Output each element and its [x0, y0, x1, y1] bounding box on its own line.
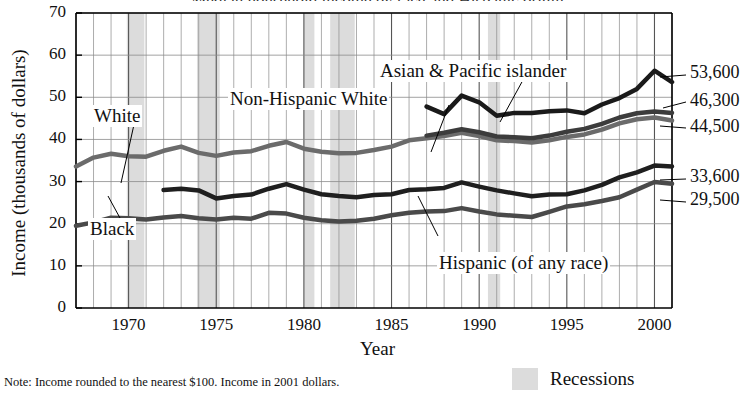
y-tick-label: 30	[32, 171, 66, 191]
series-label-black: Black	[88, 218, 136, 240]
x-tick-label: 1975	[186, 315, 246, 335]
end-value-label: 29,500	[690, 189, 740, 210]
recession-band	[330, 13, 355, 308]
recession-band	[127, 13, 145, 308]
x-axis-title: Year	[0, 338, 755, 360]
annotation-leader-line	[500, 80, 523, 122]
series-label-white: White	[92, 105, 142, 127]
series-line	[164, 166, 672, 199]
x-tick-label: 1985	[362, 315, 422, 335]
y-axis-title: Income (thousands of dollars)	[8, 13, 30, 313]
y-tick-label: 0	[32, 297, 66, 317]
y-tick-label: 70	[32, 2, 66, 22]
recession-swatch-icon	[512, 368, 538, 390]
y-tick-label: 10	[32, 255, 66, 275]
x-tick-label: 1980	[274, 315, 334, 335]
end-label-leader-line	[663, 102, 686, 108]
x-tick-label: 1995	[537, 315, 597, 335]
end-value-label: 53,600	[690, 62, 740, 83]
series-label-asian: Asian & Pacific islander	[378, 60, 568, 82]
x-tick-label: 2000	[624, 315, 684, 335]
x-tick-label: 1990	[449, 315, 509, 335]
annotation-leader-line	[108, 196, 120, 218]
series-label-non-hispanic-white: Non-Hispanic White	[228, 88, 389, 110]
y-tick-label: 60	[32, 44, 66, 64]
annotation-leader-line	[418, 196, 438, 236]
series-label-hispanic: Hispanic (of any race)	[437, 252, 610, 274]
legend: Recessions	[512, 368, 634, 390]
end-label-leader-line	[660, 179, 686, 180]
y-tick-label: 40	[32, 128, 66, 148]
y-tick-label: 20	[32, 213, 66, 233]
chart-note: Note: Income rounded to the nearest $100…	[4, 375, 339, 390]
y-tick-label: 50	[32, 86, 66, 106]
end-value-label: 44,500	[690, 116, 740, 137]
legend-label-recessions: Recessions	[550, 368, 634, 390]
end-label-leader-line	[660, 126, 686, 128]
end-value-label: 33,600	[690, 166, 740, 187]
end-label-leader-line	[660, 200, 686, 202]
chart-figure: Median household income by race and Hisp…	[0, 0, 755, 401]
x-tick-label: 1970	[99, 315, 159, 335]
recession-band	[304, 13, 315, 308]
end-value-label: 46,300	[690, 90, 740, 111]
